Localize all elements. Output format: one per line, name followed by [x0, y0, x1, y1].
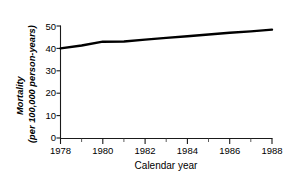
y-axis-label-line1: Mortality: [15, 75, 25, 115]
x-tick-label-1986: 1986: [219, 145, 240, 156]
y-tick-label-40: 40: [45, 43, 56, 54]
mortality-trend-line: [61, 30, 273, 49]
x-tick-label-1982: 1982: [135, 145, 156, 156]
y-tick-label-20: 20: [45, 87, 56, 98]
x-tick-label-1984: 1984: [177, 145, 198, 156]
y-axis-label-line2: (per 100,000 person-years): [27, 25, 37, 143]
x-tick-label-1980: 1980: [92, 145, 113, 156]
line-chart-plot: Mortality (per 100,000 person-years) 50 …: [0, 0, 296, 175]
y-tick-label-30: 30: [45, 65, 56, 76]
chart-figure: Mortality (per 100,000 person-years) 50 …: [0, 0, 296, 175]
x-tick-label-1978: 1978: [50, 145, 71, 156]
x-tick-label-1988: 1988: [261, 145, 282, 156]
y-tick-label-10: 10: [45, 110, 56, 121]
y-tick-label-0: 0: [51, 132, 56, 143]
y-tick-label-50: 50: [45, 21, 56, 32]
x-axis-label: Calendar year: [135, 160, 198, 171]
